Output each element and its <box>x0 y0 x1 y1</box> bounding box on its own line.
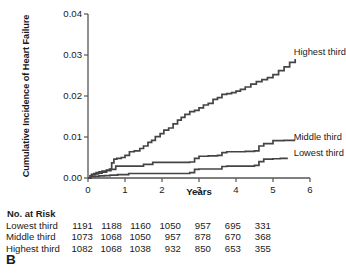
x-axis-tick-label: 1 <box>118 184 132 195</box>
risk-table-cell: 878 <box>181 231 211 242</box>
y-axis-tick-label: 0.02 <box>48 91 82 101</box>
risk-table-cell: 1188 <box>93 220 122 231</box>
series-line-lowest-third <box>88 158 288 178</box>
risk-table-cell: 1068 <box>93 243 122 254</box>
risk-table-cell: 1050 <box>122 231 151 242</box>
risk-table-cell: 1073 <box>64 231 93 242</box>
y-axis-title: Cumulative Incidence of Heart Failure <box>21 1 31 191</box>
risk-table-row: Middle third107310681050957878670368 <box>6 231 271 242</box>
x-axis-tick-label: 4 <box>229 184 243 195</box>
risk-table-cell: 1038 <box>122 243 151 254</box>
risk-table-cell: 850 <box>181 243 211 254</box>
risk-table: No. at Risk Lowest third1191118811601050… <box>6 208 326 254</box>
risk-table-cell: 653 <box>211 243 241 254</box>
y-axis-tick-label: 0.00 <box>48 173 82 183</box>
risk-table-cell: 355 <box>241 243 271 254</box>
y-axis-tick-label: 0.01 <box>48 132 82 142</box>
x-axis-tick-label: 6 <box>303 184 317 195</box>
risk-table-cell: 368 <box>241 231 271 242</box>
x-axis-tick-label: 0 <box>81 184 95 195</box>
risk-table-row: Lowest third1191118811601050957695331 <box>6 220 271 231</box>
series-label-middle-third: Middle third <box>294 132 342 142</box>
risk-table-cell: 1160 <box>122 220 151 231</box>
series-label-lowest-third: Lowest third <box>294 148 344 158</box>
risk-table-row-label: Middle third <box>6 231 64 242</box>
x-axis-tick-label: 3 <box>192 184 206 195</box>
risk-table-cell: 957 <box>181 220 211 231</box>
risk-table-grid: Lowest third1191118811601050957695331Mid… <box>6 220 271 254</box>
risk-table-cell: 695 <box>211 220 241 231</box>
risk-table-title: No. at Risk <box>7 208 326 219</box>
x-axis-tick-label: 5 <box>266 184 280 195</box>
risk-table-cell: 670 <box>211 231 241 242</box>
y-axis-tick-label: 0.04 <box>48 9 82 19</box>
risk-table-row: Highest third108210681038932850653355 <box>6 243 271 254</box>
plot-region: Cumulative Incidence of Heart Failure Ye… <box>0 0 329 200</box>
panel-label: B <box>6 252 16 267</box>
risk-table-cell: 1082 <box>64 243 93 254</box>
risk-table-cell: 1050 <box>151 220 181 231</box>
series-label-highest-third: Highest third <box>294 47 346 57</box>
risk-table-cell: 957 <box>151 231 181 242</box>
risk-table-row-label: Lowest third <box>6 220 64 231</box>
risk-table-cell: 331 <box>241 220 271 231</box>
y-axis-tick-label: 0.03 <box>48 50 82 60</box>
x-axis-tick-label: 2 <box>155 184 169 195</box>
risk-table-cell: 1068 <box>93 231 122 242</box>
risk-table-cell: 1191 <box>64 220 93 231</box>
risk-table-cell: 932 <box>151 243 181 254</box>
